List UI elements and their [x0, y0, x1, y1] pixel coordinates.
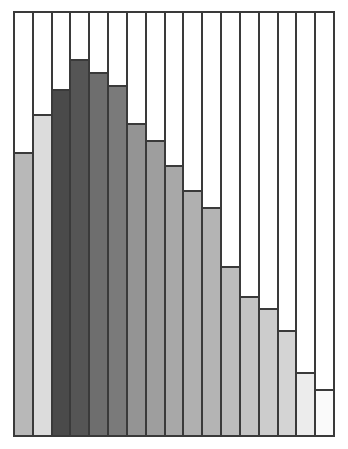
bar — [71, 59, 88, 435]
bar — [34, 114, 51, 435]
bar — [203, 207, 220, 435]
bar-column — [241, 13, 260, 435]
bar — [90, 72, 107, 435]
bar — [184, 190, 201, 435]
bar-column — [109, 13, 128, 435]
bar-column — [34, 13, 53, 435]
bar-column — [15, 13, 34, 435]
bar-column — [203, 13, 222, 435]
bar-column — [316, 13, 333, 435]
bar-column — [222, 13, 241, 435]
bar — [109, 85, 126, 435]
bar — [316, 389, 333, 435]
bar-column — [53, 13, 72, 435]
bar-column — [260, 13, 279, 435]
bar — [241, 296, 258, 435]
bar-columns-container — [15, 13, 333, 435]
bar — [166, 165, 183, 435]
bar — [15, 152, 32, 435]
bar — [279, 330, 296, 436]
plot-area-frame — [13, 11, 335, 437]
bar — [260, 308, 277, 435]
bar-column — [184, 13, 203, 435]
bar-column — [71, 13, 90, 435]
bar — [222, 266, 239, 435]
bar-column — [147, 13, 166, 435]
bar-column — [297, 13, 316, 435]
bar-column — [166, 13, 185, 435]
bar-column — [90, 13, 109, 435]
bar-chart — [0, 0, 348, 449]
bar — [147, 140, 164, 435]
bar — [128, 123, 145, 435]
bar — [53, 89, 70, 435]
bar — [297, 372, 314, 435]
bar-column — [128, 13, 147, 435]
bar-column — [279, 13, 298, 435]
